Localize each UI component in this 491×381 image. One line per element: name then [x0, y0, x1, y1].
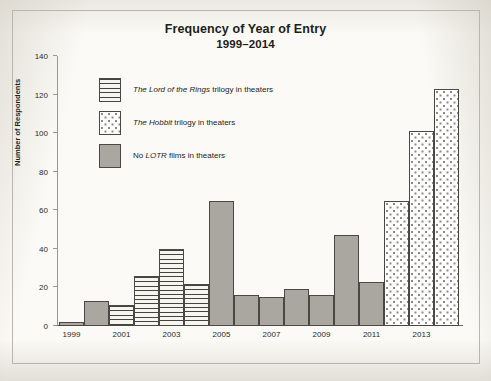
x-tick-label-2005: 2005: [202, 330, 242, 339]
x-tick-label-2003: 2003: [152, 330, 192, 339]
y-tick-label: 0: [8, 322, 57, 331]
bar-2011: [359, 282, 384, 326]
x-tick-label-2011: 2011: [352, 330, 392, 339]
bar-2007: [259, 297, 284, 326]
x-tick-label-1999: 1999: [52, 330, 92, 339]
x-tick-label-2013: 2013: [402, 330, 442, 339]
bar-2009: [309, 295, 334, 326]
x-tick-label-2001: 2001: [102, 330, 142, 339]
y-axis-line: [57, 56, 58, 326]
bar-2005: [209, 201, 234, 326]
legend-swatch-striped: [99, 78, 121, 102]
legend-swatch-dotted: [99, 111, 121, 135]
y-tick-label: 20: [8, 283, 57, 292]
y-tick-label: 100: [8, 129, 57, 138]
legend-swatch-solid: [99, 144, 121, 168]
legend-label-striped: The Lord of the Rings trilogy in theater…: [133, 85, 273, 94]
y-tick-label: 80: [8, 168, 57, 177]
bar-2003: [159, 249, 184, 326]
y-tick-label: 40: [8, 245, 57, 254]
bar-2000: [84, 301, 109, 326]
bar-2004: [184, 284, 209, 326]
bar-2008: [284, 289, 309, 326]
bar-2010: [334, 235, 359, 326]
bar-2006: [234, 295, 259, 326]
bar-2014: [434, 89, 459, 326]
y-tick-label: 120: [8, 91, 57, 100]
bar-2013: [409, 131, 434, 326]
y-tick-label: 60: [8, 206, 57, 215]
chart-subtitle: 1999–2014: [0, 38, 491, 50]
bar-1999: [59, 322, 84, 326]
bar-2012: [384, 201, 409, 326]
chart-page: Frequency of Year of Entry 1999–2014 Num…: [0, 0, 491, 381]
bar-2002: [134, 276, 159, 326]
chart-title: Frequency of Year of Entry: [0, 22, 491, 36]
legend-label-solid: No LOTR films in theaters: [133, 151, 225, 160]
x-tick-label-2009: 2009: [302, 330, 342, 339]
y-tick-label: 140: [8, 52, 57, 61]
legend-label-dotted: The Hobbit trilogy in theaters: [133, 118, 235, 127]
bar-2001: [109, 305, 134, 326]
x-tick-label-2007: 2007: [252, 330, 292, 339]
